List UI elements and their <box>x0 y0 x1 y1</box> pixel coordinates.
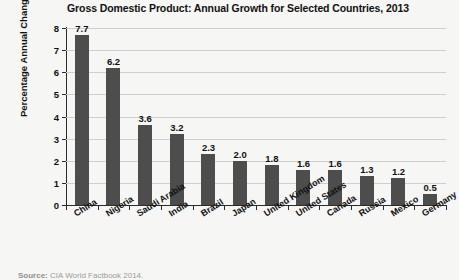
bar-value-label: 7.7 <box>75 23 88 34</box>
bar-series: 7.76.23.63.22.32.01.81.61.61.31.20.5 <box>66 28 446 205</box>
y-tick-label: 3 <box>54 133 59 144</box>
bar-slot: 1.3 <box>351 28 383 205</box>
bar[interactable] <box>233 161 247 205</box>
bar-value-label: 2.0 <box>234 149 247 160</box>
bar[interactable] <box>138 125 152 205</box>
y-axis-title: Percentage Annual Change <box>18 0 29 141</box>
bar-value-label: 6.2 <box>107 56 120 67</box>
bar-slot: 1.8 <box>256 28 288 205</box>
y-tick-label: 8 <box>54 23 59 34</box>
x-tick-mark <box>256 205 257 210</box>
y-tick-label: 0 <box>54 200 59 211</box>
bar-value-label: 1.6 <box>329 158 342 169</box>
bar-slot: 2.0 <box>224 28 256 205</box>
source-label: Source: <box>18 271 48 280</box>
bar[interactable] <box>265 165 279 205</box>
x-tick-mark <box>351 205 352 210</box>
bar-slot: 6.2 <box>98 28 130 205</box>
plot-area: 012345678 7.76.23.63.22.32.01.81.61.61.3… <box>66 28 446 205</box>
x-tick-mark <box>161 205 162 210</box>
x-tick-mark <box>383 205 384 210</box>
bar-slot: 3.2 <box>161 28 193 205</box>
y-tick-label: 6 <box>54 67 59 78</box>
bar-slot: 1.2 <box>383 28 415 205</box>
x-tick-mark <box>98 205 99 210</box>
x-tick-mark <box>193 205 194 210</box>
bar-value-label: 0.5 <box>424 182 437 193</box>
x-tick-mark <box>66 205 67 210</box>
y-tick-label: 4 <box>54 111 59 122</box>
y-tick-label: 2 <box>54 155 59 166</box>
bar[interactable] <box>75 35 89 205</box>
source-text: CIA World Factbook 2014. <box>50 271 143 280</box>
chart-title: Gross Domestic Product: Annual Growth fo… <box>0 2 452 14</box>
bar-value-label: 1.6 <box>297 158 310 169</box>
source-note: Source: CIA World Factbook 2014. <box>18 271 143 280</box>
x-tick-mark <box>288 205 289 210</box>
bar-value-label: 1.8 <box>265 153 278 164</box>
bar-slot: 7.7 <box>66 28 98 205</box>
bar-slot: 0.5 <box>414 28 446 205</box>
bar-value-label: 3.6 <box>139 113 152 124</box>
bar-slot: 3.6 <box>129 28 161 205</box>
bar[interactable] <box>106 68 120 205</box>
bar-slot: 2.3 <box>193 28 225 205</box>
bar[interactable] <box>201 154 215 205</box>
x-tick-mark <box>446 205 447 210</box>
y-tick-label: 1 <box>54 177 59 188</box>
bar-value-label: 1.3 <box>360 164 373 175</box>
bar-value-label: 1.2 <box>392 166 405 177</box>
bar-value-label: 2.3 <box>202 142 215 153</box>
y-tick-label: 5 <box>54 89 59 100</box>
y-tick-label: 7 <box>54 45 59 56</box>
bar-value-label: 3.2 <box>170 122 183 133</box>
